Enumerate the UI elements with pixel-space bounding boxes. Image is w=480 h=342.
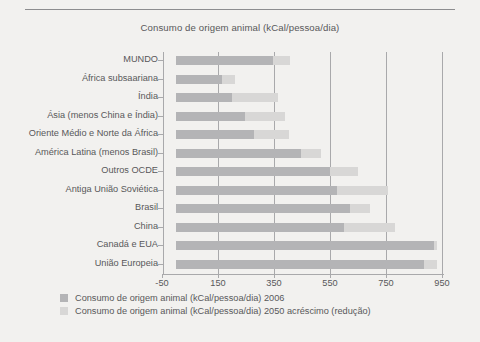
bar-row: Canadá e EUA: [176, 237, 443, 256]
bar-row: Ásia (menos China e Índia): [176, 108, 443, 127]
bar-segment-2050: [273, 56, 290, 65]
stacked-bar: [176, 223, 395, 232]
y-axis-line: [163, 52, 164, 274]
y-tick-mark: [158, 171, 163, 172]
y-tick-mark: [158, 60, 163, 61]
plot-area: MUNDOÁfrica subsaarianaÍndiaÁsia (menos …: [176, 52, 443, 274]
stacked-bar: [176, 241, 437, 250]
bar-row: China: [176, 219, 443, 238]
stacked-bar: [176, 186, 388, 195]
chart-title: Consumo de origem animal (kCal/pessoa/di…: [0, 22, 480, 33]
bar-segment-2050: [330, 167, 358, 176]
y-tick-mark: [158, 134, 163, 135]
x-tick-label-950: 950: [434, 278, 449, 288]
bar-row: África subsaariana: [176, 71, 443, 90]
bar-segment-2006: [176, 149, 301, 158]
stacked-bar: [176, 112, 285, 121]
category-label: Canadá e EUA: [97, 239, 158, 249]
bar-segment-2006: [176, 204, 350, 213]
bar-segment-2050: [350, 204, 370, 213]
bar-row: América Latina (menos Brasil): [176, 145, 443, 164]
y-tick-mark: [158, 116, 163, 117]
bar-segment-2050: [434, 241, 437, 250]
x-tick-label-550: 550: [322, 278, 337, 288]
x-tick-label-750: 750: [378, 278, 393, 288]
legend-item: Consumo de origem animal (kCal/pessoa/di…: [60, 306, 371, 316]
bar-row: Antiga União Soviética: [176, 182, 443, 201]
stacked-bar: [176, 130, 289, 139]
legend-label: Consumo de origem animal (kCal/pessoa/di…: [75, 293, 284, 303]
bar-row: Outros OCDE: [176, 163, 443, 182]
category-label: África subsaariana: [82, 73, 158, 83]
bar-segment-2006: [176, 167, 330, 176]
legend-swatch: [60, 307, 68, 315]
bar-segment-2050: [232, 93, 278, 102]
category-label: União Europeia: [95, 258, 158, 268]
y-tick-mark: [158, 153, 163, 154]
category-label: China: [134, 221, 158, 231]
y-tick-mark: [158, 97, 163, 98]
category-label: Índia: [138, 91, 158, 101]
category-label: Brasil: [135, 202, 158, 212]
bar-segment-2006: [176, 93, 232, 102]
bar-segment-2050: [245, 112, 285, 121]
legend-label: Consumo de origem animal (kCal/pessoa/di…: [75, 306, 371, 316]
bar-segment-2006: [176, 186, 337, 195]
bar-segment-2006: [176, 260, 424, 269]
bar-segment-2006: [176, 112, 245, 121]
bar-segment-2050: [344, 223, 395, 232]
stacked-bar: [176, 204, 370, 213]
bar-segment-2006: [176, 241, 434, 250]
stacked-bar: [176, 167, 358, 176]
y-tick-mark: [158, 79, 163, 80]
bar-segment-2006: [176, 130, 254, 139]
stacked-bar: [176, 149, 321, 158]
legend-item: Consumo de origem animal (kCal/pessoa/di…: [60, 293, 371, 303]
bar-row: Brasil: [176, 200, 443, 219]
stacked-bar: [176, 93, 278, 102]
bar-segment-2050: [301, 149, 321, 158]
category-label: América Latina (menos Brasil): [35, 147, 158, 157]
chart-legend: Consumo de origem animal (kCal/pessoa/di…: [60, 293, 371, 319]
bar-row: Índia: [176, 89, 443, 108]
bar-row: MUNDO: [176, 52, 443, 71]
bar-row: Oriente Médio e Norte da África: [176, 126, 443, 145]
stacked-bar: [176, 56, 290, 65]
y-tick-mark: [158, 227, 163, 228]
category-label: MUNDO: [123, 54, 158, 64]
y-tick-mark: [158, 208, 163, 209]
x-axis-line: [163, 274, 444, 275]
bar-segment-2006: [176, 223, 344, 232]
category-label: Outros OCDE: [101, 165, 158, 175]
bar-segment-2006: [176, 75, 222, 84]
category-label: Oriente Médio e Norte da África: [29, 128, 158, 138]
stacked-bar: [176, 260, 437, 269]
x-tick-label-150: 150: [210, 278, 225, 288]
x-tick-label-350: 350: [266, 278, 281, 288]
bar-segment-2050: [337, 186, 388, 195]
y-tick-mark: [158, 190, 163, 191]
stacked-bar: [176, 75, 235, 84]
category-label: Antiga União Soviética: [66, 184, 158, 194]
bar-segment-2050: [254, 130, 289, 139]
top-divider: [25, 9, 455, 10]
legend-swatch: [60, 294, 68, 302]
bar-segment-2050: [424, 260, 437, 269]
bar-segment-2050: [222, 75, 235, 84]
category-label: Ásia (menos China e Índia): [47, 110, 158, 120]
y-tick-mark: [158, 264, 163, 265]
chart-figure: Consumo de origem animal (kCal/pessoa/di…: [0, 0, 480, 342]
bar-row: União Europeia: [176, 256, 443, 275]
bar-segment-2006: [176, 56, 273, 65]
x-tick-label--50: -50: [155, 278, 168, 288]
y-tick-mark: [158, 245, 163, 246]
